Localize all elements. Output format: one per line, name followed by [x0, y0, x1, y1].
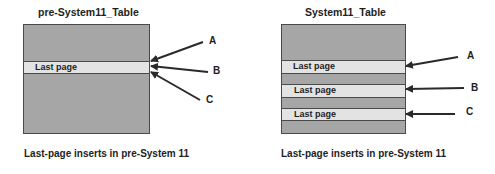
left-arrow-b-icon	[151, 66, 208, 72]
right-arrow-b-icon	[406, 88, 464, 89]
left-arrow-a-icon	[151, 42, 203, 61]
arrows-layer	[0, 0, 495, 174]
left-arrow-c-icon	[151, 72, 200, 100]
right-arrow-a-icon	[406, 57, 458, 66]
